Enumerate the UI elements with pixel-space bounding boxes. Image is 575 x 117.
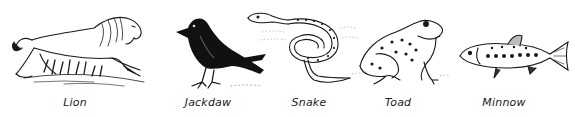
minnow-label: Minnow (482, 96, 525, 109)
toad-icon (352, 14, 452, 86)
snake-icon (242, 8, 362, 88)
lion-icon (4, 8, 154, 90)
lion-label: Lion (63, 96, 87, 109)
jackdaw-label: Jackdaw (185, 96, 232, 109)
animal-illustration-plate: Lion Jackdaw Snake Toad Minnow (0, 0, 575, 117)
toad-label: Toad (385, 96, 412, 109)
minnow-icon (456, 34, 572, 84)
snake-label: Snake (292, 96, 327, 109)
